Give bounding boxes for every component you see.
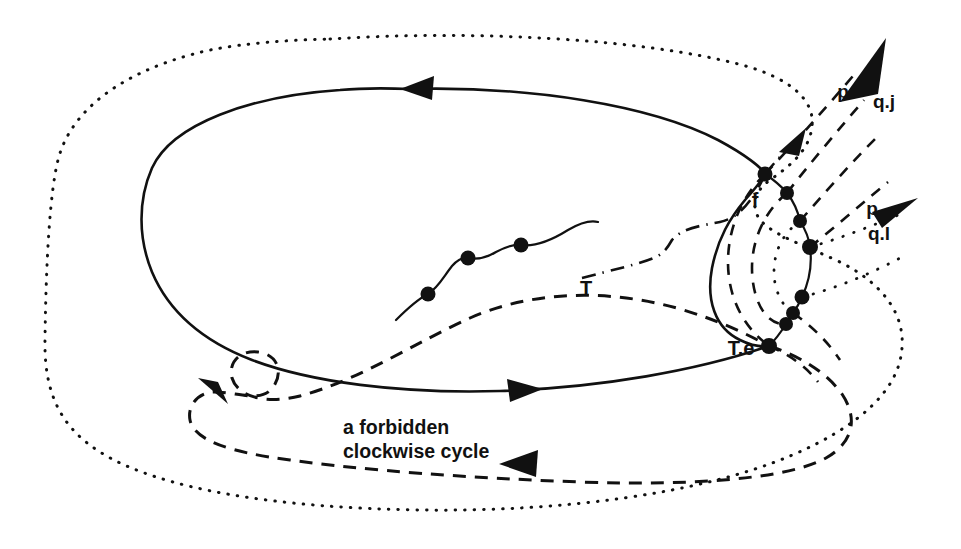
node-dots (421, 167, 819, 355)
caption-line-1: a forbidden (343, 416, 449, 438)
label-T: T (580, 277, 592, 299)
label-q-l: q.l (868, 223, 890, 244)
diagram-canvas: f T T.e p q.j p q.l a forbidden clockwis… (0, 0, 961, 549)
squiggle-node-3 (514, 238, 529, 253)
solid-cycle-top-arrow (400, 76, 434, 100)
label-q-j: q.j (873, 91, 895, 112)
arc-node-2 (780, 186, 794, 200)
squiggle-node-2 (461, 251, 476, 266)
label-p-upper: p (837, 81, 849, 102)
dash-dot-branch (582, 128, 806, 278)
dashed-cycle-loop-arrow (198, 378, 228, 404)
outer-dotted-boundary (45, 35, 902, 510)
label-T-e: T.e (728, 337, 755, 359)
arc-node-te (761, 338, 777, 354)
arc-node-5 (795, 290, 810, 305)
dashed-cycle-bottom-arrow (499, 450, 538, 477)
solid-cycle-bottom-arrow (507, 379, 543, 402)
arc-node-7 (779, 317, 793, 331)
squiggle-node-1 (421, 287, 436, 302)
p-q-l-ray (802, 198, 918, 297)
arc-node-4 (802, 239, 818, 255)
arc-node-3 (793, 214, 807, 228)
forbidden-clockwise-cycle-diagram: f T T.e p q.j p q.l a forbidden clockwis… (0, 0, 961, 549)
squiggle-chain (396, 221, 598, 320)
arc-node-f (758, 167, 773, 182)
caption-line-2: clockwise cycle (343, 440, 490, 462)
solid-cycle (142, 76, 770, 402)
diagram-labels: f T T.e p q.j p q.l a forbidden clockwis… (343, 81, 895, 462)
label-p-lower: p (866, 198, 878, 219)
label-f: f (752, 189, 759, 211)
